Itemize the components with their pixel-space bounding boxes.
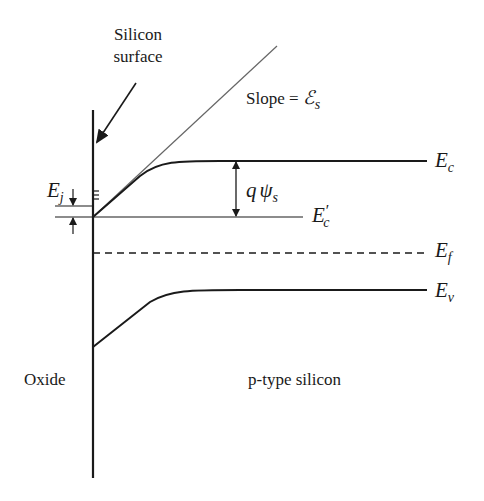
field-subscript: s	[315, 97, 320, 112]
ec-label: Ec	[435, 150, 454, 175]
ej-label-sub: j	[60, 190, 64, 205]
silicon-surface-label: Silicon surface	[108, 26, 168, 65]
ev-label: Ev	[435, 280, 454, 305]
silicon-surface-arrow-icon	[97, 83, 136, 142]
ef-label-main: E	[435, 238, 448, 262]
silicon-surface-label-line2: surface	[108, 48, 168, 65]
ec-prime-label: E′c	[312, 205, 330, 230]
qpsi-label: qψs	[246, 180, 278, 205]
ej-label-main: E	[47, 178, 60, 202]
field-symbol: ℰ	[303, 87, 315, 108]
ef-label-sub: f	[448, 250, 452, 265]
p-type-silicon-label: p-type silicon	[248, 371, 341, 388]
ef-label: Ef	[435, 240, 452, 265]
ec-label-main: E	[435, 148, 448, 172]
slope-text: Slope =	[246, 89, 303, 108]
qpsi-q: q	[246, 178, 257, 202]
ec-label-sub: c	[448, 160, 454, 175]
slope-label: Slope = ℰs	[246, 88, 320, 107]
oxide-label: Oxide	[24, 371, 66, 388]
ev-label-sub: v	[448, 290, 454, 305]
ec-prime-mark: ′	[325, 202, 329, 219]
band-diagram-svg	[0, 0, 484, 501]
qpsi-psi: ψ	[260, 178, 273, 202]
ej-label: Ej	[47, 180, 64, 205]
qpsi-sub: s	[273, 190, 278, 205]
valence-band-curve	[93, 290, 427, 347]
ev-label-main: E	[435, 278, 448, 302]
band-diagram: Silicon surface Slope = ℰs Ec E′c Ef Ev …	[0, 0, 484, 501]
silicon-surface-label-line1: Silicon	[108, 26, 168, 43]
